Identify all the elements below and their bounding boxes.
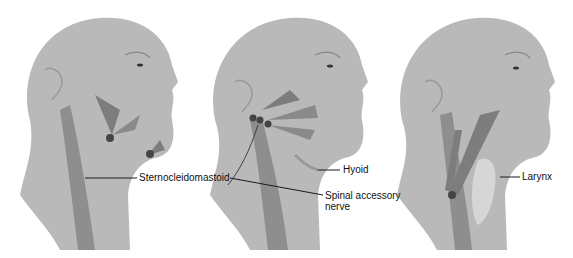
head-right <box>397 18 555 250</box>
head-middle <box>210 18 368 250</box>
label-spinal-accessory: Spinal accessory <box>325 190 401 201</box>
label-nerve: nerve <box>325 201 350 212</box>
head-left <box>20 18 178 250</box>
label-sternocleidomastoid: Sternocleidomastoid <box>139 172 230 183</box>
anatomy-illustration <box>0 0 573 258</box>
label-larynx: Larynx <box>522 171 552 182</box>
label-hyoid: Hyoid <box>343 164 369 175</box>
